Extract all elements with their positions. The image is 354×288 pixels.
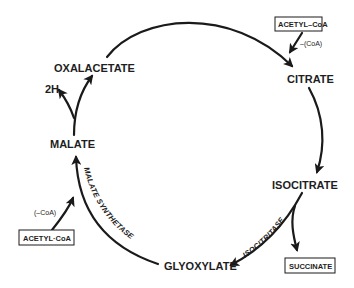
node-2h: 2H — [45, 83, 59, 95]
node-citrate: CITRATE — [287, 73, 334, 85]
node-isocitrate: ISOCITRATE — [272, 179, 338, 191]
enzyme-isocitritase: ISOCITRITASE — [241, 215, 287, 260]
enzyme-malate-synthetase: MALATE SYNTHETASE — [82, 166, 136, 241]
glyoxylate-cycle-diagram: OXALACETATE 2H MALATE CITRATE ISOCITRATE… — [0, 0, 354, 288]
arrow-isocitrate-to-succinate — [292, 206, 297, 250]
node-malate: MALATE — [50, 138, 95, 150]
arrow-isocitrate-to-glyoxylate — [231, 193, 302, 265]
arrow-malate-to-2h — [59, 90, 74, 118]
node-succinate: SUCCINATE — [289, 262, 332, 271]
node-glyoxylate: GLYOXYLATE — [164, 260, 237, 272]
arrow-malate-to-oxalacetate — [74, 76, 92, 135]
arrow-oxalacetate-to-citrate — [107, 23, 292, 66]
node-acetylcoa-top: ACETYL–CoA — [278, 20, 328, 29]
annotation-coa-released-bottom: (–CoA) — [34, 209, 56, 217]
arrow-citrate-to-isocitrate — [309, 88, 322, 172]
node-acetylcoa-bottom: ACETYL·CoA — [23, 234, 71, 243]
annotation-coa-released-top: –(CoA) — [300, 40, 322, 48]
node-oxalacetate: OXALACETATE — [54, 62, 135, 74]
